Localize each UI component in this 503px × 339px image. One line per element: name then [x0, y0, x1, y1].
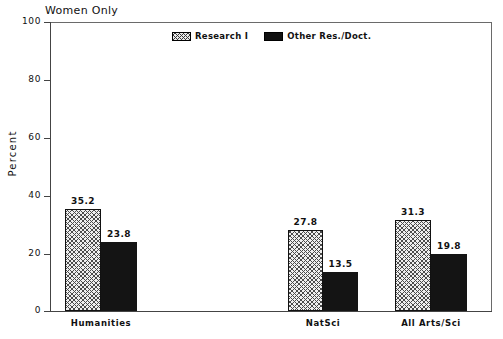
- bar-value-humanities-other-res-doct: 23.8: [101, 229, 137, 239]
- bars-layer: 35.2 23.8 Humanities 27.8 13.5 NatSci 31…: [0, 0, 503, 339]
- bar-natsci-other-res-doct: [323, 272, 358, 311]
- bar-value-all-arts-sci-research-i: 31.3: [395, 207, 431, 217]
- bar-value-all-arts-sci-other-res-doct: 19.8: [431, 241, 467, 251]
- bar-value-humanities-research-i: 35.2: [65, 196, 101, 206]
- bar-value-natsci-research-i: 27.8: [288, 217, 323, 227]
- bar-humanities-other-res-doct: [101, 242, 137, 311]
- bar-humanities-research-i: [65, 209, 101, 311]
- bar-all-arts-sci-research-i: [395, 220, 431, 311]
- bar-all-arts-sci-other-res-doct: [431, 254, 467, 311]
- chart-root: Women Only 100 80 60 40 20 0 Percent Res…: [0, 0, 503, 339]
- x-label-humanities: Humanities: [51, 318, 151, 328]
- bar-value-natsci-other-res-doct: 13.5: [323, 259, 358, 269]
- x-label-all-arts-sci: All Arts/Sci: [381, 318, 481, 328]
- x-label-natsci: NatSci: [273, 318, 373, 328]
- bar-natsci-research-i: [288, 230, 323, 311]
